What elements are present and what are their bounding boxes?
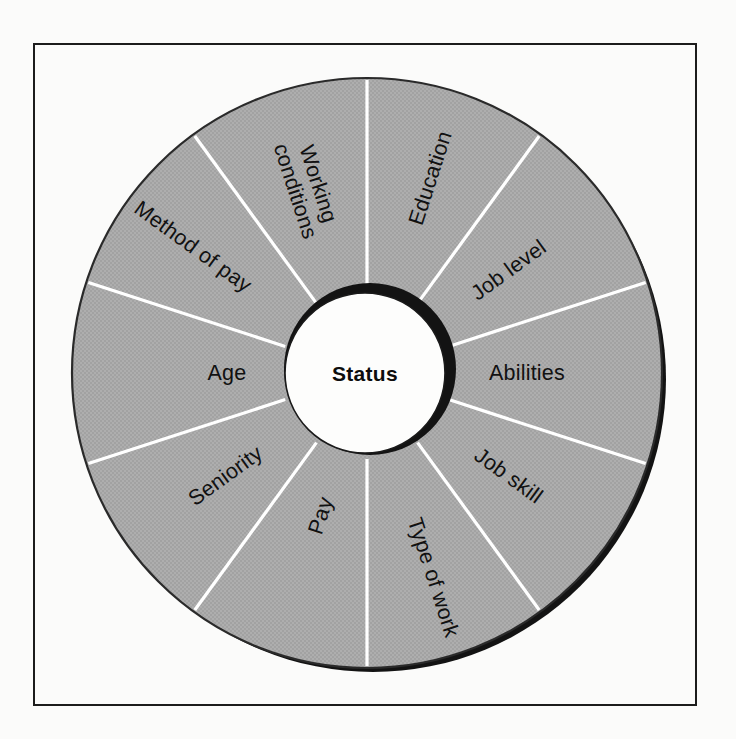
status-wheel-figure: EducationJob levelAbilitiesJob skillType… [0,0,736,739]
sector-label-age: Age [208,361,247,385]
sector-label-text: Age [208,361,247,385]
center-label: Status [332,362,398,385]
sector-label-text: Abilities [489,361,565,385]
page-canvas: EducationJob levelAbilitiesJob skillType… [0,0,736,739]
wheel-svg: EducationJob levelAbilitiesJob skillType… [0,0,736,739]
sector-label-abilities: Abilities [489,361,565,385]
